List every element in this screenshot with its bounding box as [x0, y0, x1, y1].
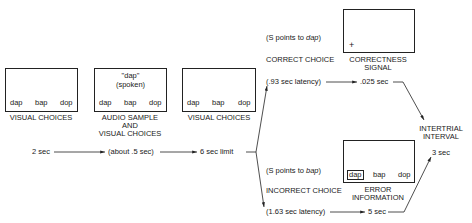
note-word: dap: [306, 33, 319, 42]
correct-latency: (.93 sec latency): [266, 78, 321, 86]
stage3-label: VISUAL CHOICES: [177, 114, 261, 122]
time-6sec-limit: 6 sec limit: [200, 148, 233, 156]
note-prefix: (S points to: [266, 33, 306, 42]
choice-bap: bap: [212, 99, 225, 107]
note-word: bap: [306, 166, 319, 175]
note-suffix: ): [319, 33, 322, 42]
choice-dop: dop: [238, 99, 251, 107]
choice-bap: bap: [373, 171, 386, 179]
stage2-label-line3: VISUAL CHOICES: [89, 130, 171, 138]
stage1-label: VISUAL CHOICES: [0, 114, 82, 122]
spoken-word: "dap": [95, 72, 166, 80]
highlighted-choice-dap: dap: [347, 170, 364, 180]
visual-choices-box-1: dap bap dop: [5, 68, 78, 112]
choice-dop: dop: [398, 171, 411, 179]
correctness-signal-box: +: [343, 9, 415, 53]
incorrect-choice-label: INCORRECT CHOICE: [266, 187, 342, 195]
choice-dop: dop: [60, 99, 73, 107]
choice-dap: dap: [10, 99, 23, 107]
choice-bap: bap: [35, 99, 48, 107]
signal-label-line2: SIGNAL: [336, 64, 420, 72]
spoken-note: (spoken): [95, 81, 166, 89]
incorrect-note: (S points to bap): [266, 167, 321, 175]
error-information-box: dap bap dop: [343, 140, 415, 183]
correct-note: (S points to dap): [266, 34, 321, 42]
time-about-half-sec: (about .5 sec): [108, 148, 154, 156]
arrow-signal-to-iti: [393, 82, 424, 120]
incorrect-latency: (1.63 sec latency): [266, 208, 325, 216]
incorrect-duration: 5 sec: [368, 208, 386, 216]
intertrial-label-line2: INTERVAL: [412, 133, 470, 141]
error-label-line2: INFORMATION: [336, 194, 420, 202]
correct-choice-label: CORRECT CHOICE: [266, 56, 334, 64]
arrow-to-incorrect: [256, 152, 264, 207]
choice-dap: dap: [187, 99, 200, 107]
plus-icon: +: [349, 41, 354, 49]
correct-duration: .025 sec: [360, 78, 388, 86]
intertrial-duration: 3 sec: [412, 149, 470, 157]
choice-bap: bap: [124, 99, 137, 107]
choice-dap: dap: [99, 99, 112, 107]
note-prefix: (S points to: [266, 166, 306, 175]
audio-sample-box: "dap" (spoken) dap bap dop: [94, 68, 167, 112]
visual-choices-box-2: dap bap dop: [182, 68, 256, 112]
time-2sec: 2 sec: [32, 148, 50, 156]
choice-dop: dop: [149, 99, 162, 107]
trial-sequence-diagram: dap bap dop VISUAL CHOICES "dap" (spoken…: [0, 0, 472, 223]
note-suffix: ): [319, 166, 322, 175]
